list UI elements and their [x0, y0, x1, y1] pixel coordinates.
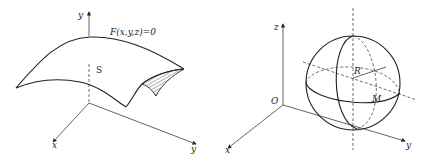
surface-cut-section: [142, 69, 184, 96]
x-axis-label: x: [52, 140, 57, 150]
diagram-canvas: y x y F(x,y,z)=0 S z x y O R M: [0, 0, 422, 161]
surface-figure: y x y F(x,y,z)=0 S: [16, 10, 197, 154]
sphere-figure: z x y O R M: [225, 8, 417, 155]
x-axis-label: x: [225, 145, 230, 155]
z-axis-label: z: [273, 22, 279, 32]
y-axis: [89, 103, 196, 144]
y-axis-label: y: [405, 140, 412, 150]
point-label: M: [371, 94, 382, 104]
y-axis-label: y: [190, 144, 197, 154]
surface-label: S: [96, 65, 102, 75]
y-axis: [283, 105, 405, 141]
x-axis: [228, 105, 283, 148]
origin-label: O: [271, 96, 279, 106]
equation-label: F(x,y,z)=0: [109, 27, 156, 37]
meridian-front: [336, 36, 357, 129]
radius-label: R: [353, 66, 361, 76]
x-axis: [53, 103, 89, 142]
vertical-axis-label: y: [77, 10, 84, 20]
meridian-back: [353, 36, 376, 129]
surface-front-edge: [16, 80, 126, 107]
